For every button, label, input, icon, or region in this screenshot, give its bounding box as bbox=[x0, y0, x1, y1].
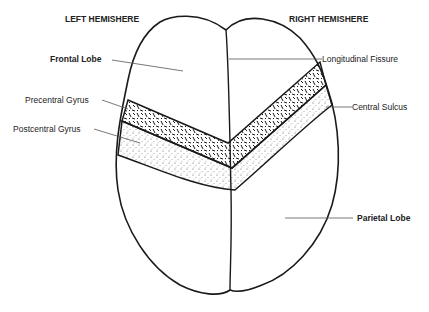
right-hemisphere-header: RIGHT HEMISHERE bbox=[289, 15, 368, 24]
label-postcentral-gyrus: Postcentral Gyrus bbox=[13, 125, 81, 134]
brain-diagram bbox=[0, 0, 429, 312]
left-hemisphere-header: LEFT HEMISHERE bbox=[65, 15, 139, 24]
label-precentral-gyrus: Precentral Gyrus bbox=[25, 96, 89, 105]
leader-frontal-lobe bbox=[112, 60, 183, 71]
label-frontal-lobe: Frontal Lobe bbox=[50, 55, 101, 64]
label-central-sulcus: Central Sulcus bbox=[352, 103, 407, 112]
label-parietal-lobe: Parietal Lobe bbox=[357, 214, 410, 223]
label-longitudinal-fissure: Longitudinal Fissure bbox=[322, 55, 398, 64]
